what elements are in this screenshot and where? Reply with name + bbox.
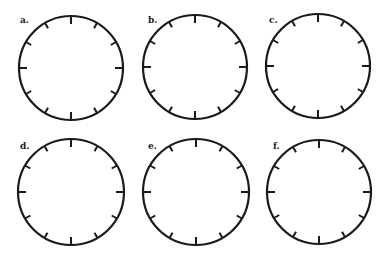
- clock-label-b: b.: [148, 16, 157, 25]
- hour-tick: [273, 40, 278, 43]
- hour-tick: [111, 91, 116, 94]
- clock-face-e: [143, 139, 249, 245]
- hour-tick: [220, 146, 223, 151]
- hour-tick: [26, 42, 31, 45]
- clock-label-c: c.: [269, 16, 278, 25]
- clock-label-d: d.: [20, 142, 29, 151]
- hour-tick: [150, 41, 155, 44]
- hour-tick: [359, 215, 364, 218]
- hour-tick: [342, 232, 345, 237]
- hour-tick: [95, 146, 98, 151]
- hour-tick: [26, 91, 31, 94]
- hour-tick: [25, 166, 30, 169]
- hour-tick: [273, 89, 278, 92]
- clock-rim: [266, 14, 370, 118]
- hour-tick: [358, 89, 363, 92]
- hour-tick: [45, 233, 48, 238]
- hour-tick: [111, 42, 116, 45]
- hour-tick: [95, 233, 98, 238]
- hour-tick: [45, 108, 48, 113]
- hour-tick: [292, 21, 295, 26]
- hour-tick: [150, 166, 155, 169]
- hour-tick: [150, 216, 155, 219]
- clock-rim: [19, 16, 123, 120]
- hour-tick: [293, 147, 296, 152]
- clock-faces-figure: a. b. c. d. e. f.: [0, 0, 387, 259]
- hour-tick: [45, 146, 48, 151]
- hour-tick: [170, 233, 173, 238]
- hour-tick: [341, 106, 344, 111]
- clock-face-c: [266, 14, 370, 118]
- hour-tick: [94, 108, 97, 113]
- hour-tick: [150, 90, 155, 93]
- clock-face-b: [143, 15, 247, 119]
- hour-tick: [359, 166, 364, 169]
- hour-tick: [274, 215, 279, 218]
- clock-face-f: [267, 140, 371, 244]
- hour-tick: [25, 216, 30, 219]
- clock-face-a: [19, 16, 123, 120]
- hour-tick: [170, 146, 173, 151]
- clock-faces-canvas: [0, 0, 387, 259]
- hour-tick: [218, 107, 221, 112]
- clock-rim: [143, 15, 247, 119]
- clock-label-e: e.: [148, 142, 157, 151]
- hour-tick: [358, 40, 363, 43]
- hour-tick: [218, 22, 221, 27]
- hour-tick: [169, 107, 172, 112]
- hour-tick: [45, 23, 48, 28]
- hour-tick: [237, 216, 242, 219]
- hour-tick: [274, 166, 279, 169]
- clock-rim: [18, 139, 124, 245]
- hour-tick: [235, 90, 240, 93]
- hour-tick: [235, 41, 240, 44]
- hour-tick: [293, 232, 296, 237]
- clock-label-f: f.: [273, 142, 280, 151]
- hour-tick: [94, 23, 97, 28]
- hour-tick: [112, 166, 117, 169]
- hour-tick: [341, 21, 344, 26]
- hour-tick: [220, 233, 223, 238]
- clock-rim: [143, 139, 249, 245]
- hour-tick: [342, 147, 345, 152]
- clock-label-a: a.: [20, 16, 29, 25]
- clock-face-d: [18, 139, 124, 245]
- clock-rim: [267, 140, 371, 244]
- hour-tick: [169, 22, 172, 27]
- hour-tick: [112, 216, 117, 219]
- hour-tick: [292, 106, 295, 111]
- hour-tick: [237, 166, 242, 169]
